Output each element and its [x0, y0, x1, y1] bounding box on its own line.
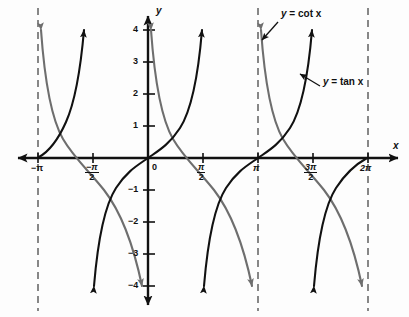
- y-tick-label-2: 2: [133, 88, 138, 98]
- x-tick-label-neg-half-pi: −π 2: [85, 163, 99, 182]
- cot-curve-label: y = cot x: [281, 8, 321, 19]
- tan-label-variable: y: [323, 76, 329, 87]
- tan-leader-line: [300, 74, 320, 86]
- cot-label-function: cot x: [298, 8, 321, 19]
- frac-denominator: 2: [85, 173, 99, 182]
- y-tick-label-neg-4: −4: [128, 280, 138, 290]
- x-axis-name: x: [393, 140, 399, 151]
- frac-denominator: 2: [197, 173, 205, 182]
- y-tick-label-1: 1: [133, 120, 138, 130]
- graph-canvas: [0, 0, 409, 317]
- cot-label-equals: =: [289, 8, 295, 19]
- tan-label-equals: =: [331, 76, 337, 87]
- y-axis-name: y: [156, 5, 162, 16]
- y-tick-label-4: 4: [133, 24, 138, 34]
- x-tick-label-two-pi: 2π: [360, 163, 371, 173]
- x-tick-label-neg-pi: −π: [31, 163, 43, 173]
- y-tick-label-neg-2: −2: [128, 216, 138, 226]
- axis-lines: [18, 16, 398, 305]
- x-tick-label-half-pi: π 2: [197, 163, 205, 182]
- y-tick-label-3: 3: [133, 56, 138, 66]
- tan-cot-graph-figure: x y 0 −π −π 2 π 2 π 3π 2 2π 4 3 2 1 −1 −…: [0, 0, 409, 317]
- frac-denominator: 2: [304, 173, 317, 182]
- y-tick-label-neg-3: −3: [128, 248, 138, 258]
- cot-leader-line: [262, 22, 278, 40]
- y-tick-label-neg-1: −1: [128, 184, 138, 194]
- origin-label: 0: [152, 162, 157, 172]
- x-tick-label-three-half-pi: 3π 2: [304, 163, 317, 182]
- tan-label-function: tan x: [340, 76, 363, 87]
- cot-label-variable: y: [281, 8, 287, 19]
- tan-branch-3halfpi-2pi: [314, 158, 367, 286]
- x-tick-label-pi: π: [253, 163, 259, 173]
- tan-curve-label: y = tan x: [323, 76, 363, 87]
